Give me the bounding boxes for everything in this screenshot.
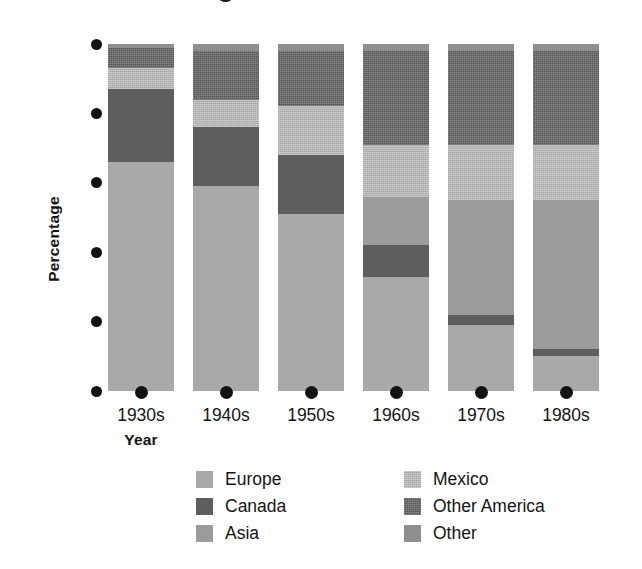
bar-segment[interactable] (533, 51, 599, 145)
x-tick-dot (475, 386, 488, 399)
bar-segment[interactable] (533, 145, 599, 201)
y-tick-dot (91, 316, 102, 327)
clipped-title-artifact (219, 0, 232, 2)
stacked-bar-chart: Percentage 1930s1940s1950s1960s1970s1980… (0, 0, 642, 569)
bar-segment[interactable] (363, 197, 429, 246)
y-tick-60 (40, 173, 102, 193)
x-tick-dot (560, 386, 573, 399)
bar-segment[interactable] (193, 100, 259, 128)
legend-label: Other (433, 525, 477, 543)
bar-segment[interactable] (363, 245, 429, 276)
y-tick-dot (91, 39, 102, 50)
bar-segment[interactable] (533, 349, 599, 356)
legend-label: Other America (433, 498, 545, 516)
x-tick-dot (135, 386, 148, 399)
legend-swatch-icon (404, 498, 421, 515)
y-tick-80 (40, 103, 102, 123)
bar-segment[interactable] (448, 44, 514, 51)
legend-item-canada[interactable]: Canada (196, 493, 286, 520)
bar-1960s[interactable] (363, 44, 429, 391)
legend-label: Europe (225, 471, 281, 489)
x-tick-label-1970s: 1970s (436, 405, 526, 426)
bar-segment[interactable] (448, 145, 514, 201)
legend-item-other[interactable]: Other (404, 520, 545, 547)
y-tick-dot (91, 386, 102, 397)
x-tick-dot (220, 386, 233, 399)
y-tick-dot (91, 177, 102, 188)
legend-column: MexicoOther AmericaOther (404, 466, 545, 547)
x-tick-dot (390, 386, 403, 399)
bar-1970s[interactable] (448, 44, 514, 391)
bar-segment[interactable] (193, 186, 259, 391)
bar-segment[interactable] (108, 89, 174, 162)
legend-column: EuropeCanadaAsia (196, 466, 286, 547)
bar-segment[interactable] (278, 106, 344, 155)
bar-segment[interactable] (278, 51, 344, 107)
legend-swatch-icon (196, 471, 213, 488)
bar-1930s[interactable] (108, 44, 174, 391)
y-tick-100 (40, 34, 102, 54)
x-tick-label-1980s: 1980s (521, 405, 611, 426)
x-tick-dot (305, 386, 318, 399)
legend-item-asia[interactable]: Asia (196, 520, 286, 547)
bar-segment[interactable] (448, 51, 514, 145)
plot-area (108, 44, 628, 391)
legend-item-other-america[interactable]: Other America (404, 493, 545, 520)
y-tick-dot (91, 247, 102, 258)
legend-swatch-icon (196, 498, 213, 515)
bar-segment[interactable] (193, 44, 259, 51)
bar-segment[interactable] (193, 51, 259, 100)
y-tick-0 (40, 381, 102, 401)
legend-item-europe[interactable]: Europe (196, 466, 286, 493)
bar-segment[interactable] (448, 325, 514, 391)
legend-label: Mexico (433, 471, 488, 489)
bar-1950s[interactable] (278, 44, 344, 391)
bar-segment[interactable] (363, 51, 429, 145)
bar-segment[interactable] (108, 68, 174, 89)
y-tick-20 (40, 312, 102, 332)
bar-segment[interactable] (363, 145, 429, 197)
bar-segment[interactable] (193, 127, 259, 186)
bar-segment[interactable] (108, 162, 174, 391)
legend-label: Asia (225, 525, 259, 543)
bar-segment[interactable] (278, 155, 344, 214)
bar-segment[interactable] (448, 200, 514, 315)
x-tick-label-1960s: 1960s (351, 405, 441, 426)
bar-segment[interactable] (448, 315, 514, 325)
legend-swatch-icon (404, 471, 421, 488)
legend-swatch-icon (404, 525, 421, 542)
bar-segment[interactable] (363, 277, 429, 392)
chart-legend: EuropeCanadaAsiaMexicoOther AmericaOther (0, 466, 642, 551)
legend-item-mexico[interactable]: Mexico (404, 466, 545, 493)
x-tick-label-1930s: 1930s (96, 405, 186, 426)
bar-segment[interactable] (533, 200, 599, 349)
x-axis-title: Year (108, 431, 174, 449)
bar-1940s[interactable] (193, 44, 259, 391)
bar-segment[interactable] (363, 44, 429, 51)
x-tick-label-1940s: 1940s (181, 405, 271, 426)
legend-swatch-icon (196, 525, 213, 542)
y-tick-dot (91, 108, 102, 119)
bar-1980s[interactable] (533, 44, 599, 391)
bar-segment[interactable] (533, 44, 599, 51)
bar-segment[interactable] (108, 48, 174, 69)
legend-label: Canada (225, 498, 286, 516)
bar-segment[interactable] (278, 214, 344, 391)
x-tick-label-1950s: 1950s (266, 405, 356, 426)
bar-segment[interactable] (278, 44, 344, 51)
y-tick-40 (40, 242, 102, 262)
